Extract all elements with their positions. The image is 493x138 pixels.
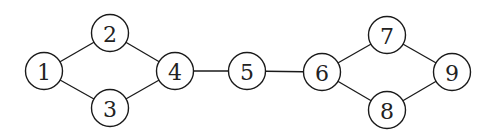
node-8: 8 xyxy=(369,92,406,129)
node-label: 8 xyxy=(380,99,394,124)
node-label: 3 xyxy=(103,97,117,122)
node-3: 3 xyxy=(92,90,129,127)
node-label: 7 xyxy=(380,24,394,49)
node-1: 1 xyxy=(26,53,63,90)
node-label: 9 xyxy=(445,61,459,86)
graph-svg: 123456789 xyxy=(0,0,493,138)
node-7: 7 xyxy=(369,17,406,54)
node-label: 5 xyxy=(240,60,254,85)
node-4: 4 xyxy=(157,53,194,90)
node-label: 1 xyxy=(37,60,51,85)
node-2: 2 xyxy=(92,15,129,52)
nodes-layer: 123456789 xyxy=(26,15,471,129)
node-6: 6 xyxy=(304,54,341,91)
node-5: 5 xyxy=(229,53,266,90)
node-label: 2 xyxy=(103,22,117,47)
graph-diagram: 123456789 xyxy=(0,0,493,138)
node-label: 6 xyxy=(315,61,329,86)
node-label: 4 xyxy=(168,60,182,85)
node-9: 9 xyxy=(434,54,471,91)
